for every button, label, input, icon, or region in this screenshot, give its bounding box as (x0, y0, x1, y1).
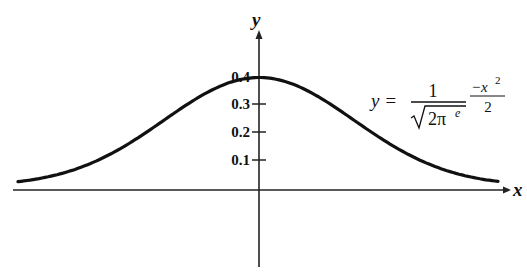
formula-exp-square: 2 (495, 74, 501, 86)
y-ticks: 0.4 0.3 0.2 0.1 (231, 69, 266, 168)
x-axis-arrow-icon (503, 187, 511, 194)
formula-annotation: y = 1 2π e −x 2 2 (369, 74, 505, 129)
formula-lhs: y = (369, 90, 397, 111)
formula-e: e (455, 106, 461, 120)
y-axis-label: y (250, 9, 261, 30)
formula-exp-den: 2 (484, 99, 492, 115)
tick-label-0.2: 0.2 (231, 124, 250, 140)
normal-curve (18, 78, 498, 182)
y-axis-arrow-icon (256, 30, 263, 39)
formula-exp-num: −x (471, 79, 488, 95)
tick-label-0.3: 0.3 (231, 96, 250, 112)
normal-distribution-chart: x y 0.4 0.3 0.2 0.1 y = 1 2π e −x 2 2 (0, 0, 527, 275)
formula-sqrt-arg: 2π (428, 109, 446, 129)
tick-label-0.1: 0.1 (231, 152, 250, 168)
formula-numerator: 1 (429, 81, 438, 101)
x-axis-label: x (512, 179, 523, 200)
